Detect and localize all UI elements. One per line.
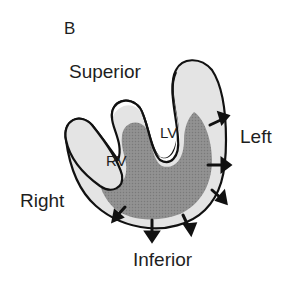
label-superior: Superior xyxy=(69,62,141,81)
label-right: Right xyxy=(20,191,64,210)
label-inferior: Inferior xyxy=(133,250,192,269)
label-lv: LV xyxy=(160,125,177,140)
label-left: Left xyxy=(240,127,272,146)
panel-label: B xyxy=(64,20,75,37)
label-rv: RV xyxy=(106,153,127,168)
